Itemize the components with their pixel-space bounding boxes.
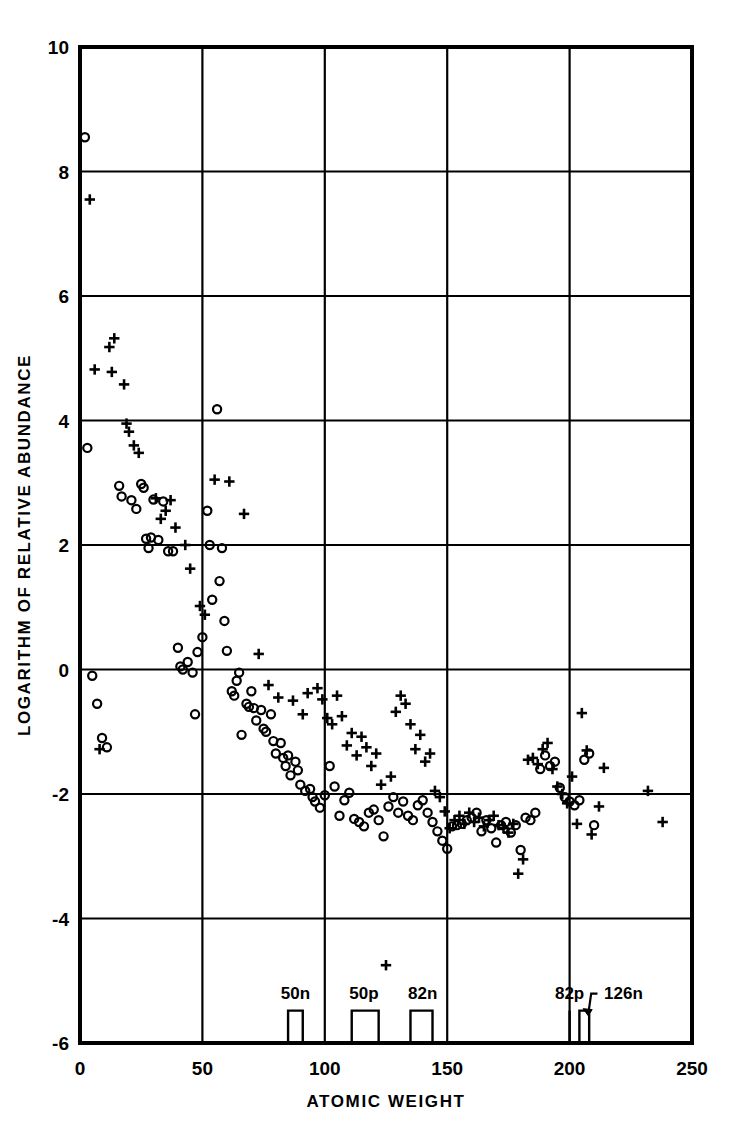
y-tick-label: 0 (58, 660, 69, 681)
magic-number-label: 126n (604, 984, 643, 1003)
chart-background (0, 0, 732, 1121)
y-tick-label: -2 (52, 784, 69, 805)
magic-number-label: 50n (281, 984, 310, 1003)
x-tick-label: 250 (676, 1058, 708, 1079)
magic-number-label: 50p (349, 984, 378, 1003)
x-tick-label: 150 (431, 1058, 463, 1079)
magic-number-label: 82n (408, 984, 437, 1003)
y-tick-label: -6 (52, 1033, 69, 1054)
x-axis-title: ATOMIC WEIGHT (307, 1092, 466, 1111)
scatter-plot-svg: 050100150200250 -6-4-20246810 50n50p82n8… (0, 0, 732, 1121)
magic-number-label: 82p (555, 984, 584, 1003)
y-tick-label: 2 (58, 535, 69, 556)
y-tick-label: -4 (52, 909, 69, 930)
y-tick-label: 6 (58, 286, 69, 307)
abundance-chart-figure: 050100150200250 -6-4-20246810 50n50p82n8… (0, 0, 732, 1121)
y-axis-title: LOGARITHM OF RELATIVE ABUNDANCE (15, 354, 34, 736)
x-tick-label: 100 (309, 1058, 341, 1079)
x-tick-label: 200 (554, 1058, 586, 1079)
y-tick-label: 8 (58, 162, 69, 183)
x-tick-label: 50 (192, 1058, 213, 1079)
y-tick-label: 10 (48, 37, 69, 58)
x-tick-label: 0 (75, 1058, 86, 1079)
y-tick-label: 4 (58, 411, 69, 432)
